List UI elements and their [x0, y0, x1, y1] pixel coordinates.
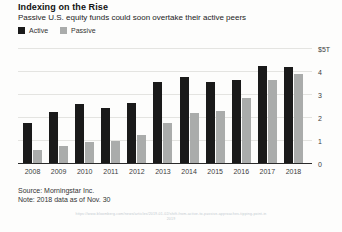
bar-active-2009	[49, 112, 58, 164]
bar-passive-2011	[111, 141, 120, 164]
active-swatch-icon	[18, 27, 25, 34]
bar-active-2016	[232, 80, 241, 164]
caption-url-line2[interactable]: 2019	[0, 217, 342, 222]
bar-passive-2016	[242, 98, 251, 164]
y-axis-label-1: 1	[318, 137, 322, 146]
legend-label-passive: Passive	[71, 27, 96, 34]
x-axis-label-2011: 2011	[103, 168, 118, 175]
bar-group-2014: 2014	[180, 47, 199, 164]
legend-label-active: Active	[29, 27, 48, 34]
y-axis-label-3: 3	[318, 91, 322, 100]
x-axis-label-2018: 2018	[286, 168, 302, 175]
bar-group-2011: 2011	[101, 47, 120, 164]
passive-swatch-icon	[60, 27, 67, 34]
x-axis-label-2015: 2015	[207, 168, 223, 175]
bar-active-2015	[206, 82, 215, 164]
bar-passive-2012	[137, 135, 146, 164]
caption-url-line1[interactable]: https://www.bloomberg.com/news/articles/…	[75, 212, 266, 216]
bar-active-2011	[101, 108, 110, 164]
bar-passive-2015	[216, 111, 225, 164]
source-text: Source: Morningstar Inc.	[18, 187, 94, 194]
bars-row: 2008200920102011201220132014201520162017…	[23, 47, 303, 164]
x-axis-label-2008: 2008	[25, 168, 41, 175]
bar-passive-2017	[268, 80, 277, 164]
caption-url[interactable]: https://www.bloomberg.com/news/articles/…	[0, 212, 342, 221]
bar-passive-2010	[85, 142, 94, 164]
bar-group-2017: 2017	[258, 47, 277, 164]
bar-group-2009: 2009	[49, 47, 68, 164]
bar-active-2008	[23, 123, 32, 164]
bar-passive-2014	[190, 113, 199, 164]
bar-group-2015: 2015	[206, 47, 225, 164]
bar-group-2012: 2012	[127, 47, 146, 164]
bar-active-2017	[258, 66, 267, 164]
x-axis-label-2009: 2009	[51, 168, 67, 175]
x-axis-label-2012: 2012	[129, 168, 145, 175]
bar-group-2013: 2013	[153, 47, 172, 164]
x-axis-label-2013: 2013	[155, 168, 171, 175]
bar-active-2010	[75, 104, 84, 164]
bar-passive-2013	[163, 123, 172, 164]
legend: Active Passive	[18, 27, 96, 34]
legend-item-passive: Passive	[60, 27, 96, 34]
bar-active-2012	[127, 103, 136, 164]
chart-subtitle: Passive U.S. equity funds could soon ove…	[18, 13, 246, 22]
bar-group-2018: 2018	[284, 47, 303, 164]
bar-active-2014	[180, 77, 189, 164]
x-axis-label-2014: 2014	[181, 168, 197, 175]
x-axis-label-2017: 2017	[260, 168, 276, 175]
y-axis-label-0: 0	[318, 160, 322, 169]
y-axis-label-4: 4	[318, 68, 322, 77]
note-text: Note: 2018 data as of Nov. 30	[18, 196, 111, 203]
bar-passive-2008	[33, 150, 42, 164]
chart-title: Indexing on the Rise	[18, 2, 108, 12]
x-axis-label-2016: 2016	[233, 168, 249, 175]
plot-area: 2008200920102011201220132014201520162017…	[18, 47, 312, 164]
y-axis: $5T43210	[318, 47, 342, 164]
y-axis-label-2: 2	[318, 114, 322, 123]
bar-passive-2009	[59, 146, 68, 164]
chart-card: Indexing on the Rise Passive U.S. equity…	[0, 0, 342, 232]
x-axis-label-2010: 2010	[77, 168, 93, 175]
x-axis-line	[18, 163, 312, 164]
bar-group-2010: 2010	[75, 47, 94, 164]
bar-group-2016: 2016	[232, 47, 251, 164]
bar-active-2018	[284, 67, 293, 164]
bar-group-2008: 2008	[23, 47, 42, 164]
y-axis-label-5: $5T	[318, 45, 330, 54]
legend-item-active: Active	[18, 27, 48, 34]
bar-passive-2018	[294, 74, 303, 164]
bar-active-2013	[153, 82, 162, 164]
